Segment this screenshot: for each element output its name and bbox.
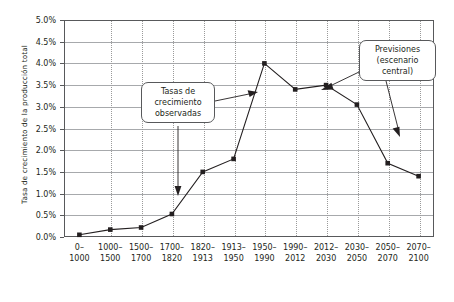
- gridline-vertical: [296, 21, 297, 236]
- gridline-horizontal: [65, 129, 433, 130]
- y-axis-tick-label: 1.5%: [0, 167, 56, 176]
- gridline-horizontal: [65, 150, 433, 151]
- gridline-vertical: [173, 21, 174, 236]
- y-axis-tick-label: 3.0%: [0, 102, 56, 111]
- gridline-horizontal: [65, 172, 433, 173]
- chart-container: Tasa de crecimiento de la producción tot…: [0, 0, 454, 302]
- y-axis-tick-mark: [60, 194, 64, 195]
- y-axis-tick-label: 2.0%: [0, 146, 56, 155]
- gridline-vertical: [235, 21, 236, 236]
- observed-growth-callout: Tasas de crecimiento observadas: [141, 82, 215, 123]
- y-axis-tick-mark: [60, 172, 64, 173]
- gridline-horizontal: [65, 107, 433, 108]
- y-axis-tick-mark: [60, 237, 64, 238]
- y-axis-tick-mark: [60, 20, 64, 21]
- y-axis-tick-mark: [60, 150, 64, 151]
- gridline-vertical: [327, 21, 328, 236]
- y-axis-tick-label: 4.5%: [0, 37, 56, 46]
- gridline-horizontal: [65, 194, 433, 195]
- y-axis-tick-label: 0.5%: [0, 211, 56, 220]
- x-axis-tick-label: 2070– 2100: [389, 243, 449, 264]
- y-axis-tick-label: 3.5%: [0, 81, 56, 90]
- gridline-vertical: [142, 21, 143, 236]
- y-axis-tick-mark: [60, 42, 64, 43]
- y-axis-tick-mark: [60, 107, 64, 108]
- gridline-vertical: [265, 21, 266, 236]
- y-axis-tick-mark: [60, 85, 64, 86]
- y-axis-tick-mark: [60, 63, 64, 64]
- forecast-callout: Previsiones (escenario central): [359, 40, 436, 81]
- y-axis-tick-label: 2.5%: [0, 124, 56, 133]
- gridline-horizontal: [65, 215, 433, 216]
- y-axis-tick-label: 5.0%: [0, 16, 56, 25]
- gridline-horizontal: [65, 85, 433, 86]
- y-axis-tick-label: 1.0%: [0, 189, 56, 198]
- y-axis-tick-label: 0.0%: [0, 233, 56, 242]
- gridline-vertical: [111, 21, 112, 236]
- gridline-vertical: [204, 21, 205, 236]
- y-axis-tick-mark: [60, 215, 64, 216]
- y-axis-tick-mark: [60, 129, 64, 130]
- y-axis-tick-label: 4.0%: [0, 59, 56, 68]
